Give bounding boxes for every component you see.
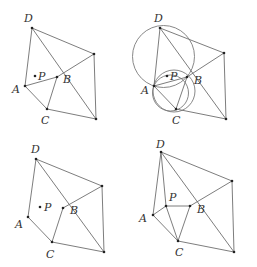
- point-e: [101, 185, 104, 188]
- segment-be: [187, 53, 224, 77]
- segment-cf: [178, 241, 234, 252]
- segment-da: [25, 28, 32, 86]
- geometry-figure: DACBP DACBP DACBP DACBP: [0, 0, 257, 267]
- point-p: [34, 75, 37, 78]
- point-a: [153, 85, 156, 88]
- point-c: [46, 108, 49, 111]
- segment-ac: [28, 217, 52, 242]
- label-c: C: [46, 248, 55, 261]
- segment-ef: [94, 54, 96, 119]
- label-d: D: [30, 143, 40, 156]
- label-b: B: [69, 204, 78, 217]
- label-d: D: [153, 12, 163, 25]
- circle-1: [133, 26, 195, 88]
- segment-ac: [25, 86, 47, 109]
- segment-pc: [166, 206, 178, 241]
- label-a: A: [11, 83, 20, 96]
- label-d: D: [23, 12, 33, 25]
- label-c: C: [41, 114, 50, 127]
- label-p: P: [37, 70, 46, 83]
- point-d: [31, 27, 34, 30]
- point-b: [62, 207, 65, 210]
- figure-panel-4: DACBP: [138, 138, 235, 259]
- segment-bc: [47, 77, 57, 109]
- segment-da: [154, 28, 160, 86]
- segment-cf: [47, 109, 96, 119]
- segment-ef: [102, 186, 104, 252]
- point-d: [159, 27, 162, 30]
- segment-ef: [232, 181, 234, 252]
- point-d: [35, 158, 38, 161]
- segment-ac: [153, 215, 178, 241]
- point-a: [27, 216, 30, 219]
- segment-bc: [52, 208, 63, 242]
- segment-da: [28, 159, 36, 217]
- figure-panel-1: DACBP: [11, 12, 97, 127]
- point-f: [95, 118, 98, 121]
- segment-ef: [224, 53, 226, 119]
- label-b: B: [196, 203, 205, 216]
- segment-bc: [178, 206, 190, 241]
- point-c: [175, 108, 178, 111]
- point-p: [166, 75, 169, 78]
- segment-cf: [52, 242, 104, 252]
- point-f: [103, 251, 106, 254]
- point-e: [223, 52, 226, 55]
- segment-ap: [153, 206, 166, 215]
- label-c: C: [175, 246, 184, 259]
- point-b: [186, 76, 189, 79]
- segment-be: [63, 186, 102, 208]
- figure-panel-3: DACBP: [14, 143, 105, 261]
- point-p: [39, 206, 42, 209]
- point-e: [231, 180, 234, 183]
- point-f: [225, 118, 228, 121]
- label-c: C: [172, 114, 181, 127]
- point-e: [93, 53, 96, 56]
- point-f: [233, 251, 236, 254]
- segment-cf: [176, 109, 226, 119]
- segment-da: [153, 152, 161, 215]
- label-p: P: [169, 70, 178, 83]
- label-a: A: [140, 84, 149, 97]
- figure-panel-2-with-circles: DACBP: [133, 12, 228, 127]
- label-a: A: [138, 212, 147, 225]
- point-a: [24, 85, 27, 88]
- segment-dp: [161, 152, 166, 206]
- label-p: P: [43, 201, 52, 214]
- point-p: [165, 205, 168, 208]
- point-b: [189, 205, 192, 208]
- point-c: [51, 241, 54, 244]
- point-d: [160, 151, 163, 154]
- label-p: P: [168, 191, 177, 204]
- point-a: [152, 214, 155, 217]
- point-b: [56, 76, 59, 79]
- label-b: B: [62, 73, 71, 86]
- point-c: [177, 240, 180, 243]
- label-d: D: [155, 138, 165, 151]
- label-b: B: [193, 74, 202, 87]
- label-a: A: [14, 218, 23, 231]
